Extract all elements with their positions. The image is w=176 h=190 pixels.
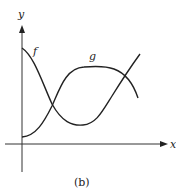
x-axis-label: x (170, 138, 176, 151)
function-graph: y x f g (b) (0, 0, 176, 190)
curve-g (22, 66, 138, 137)
curve-f-label: f (32, 45, 39, 58)
curve-f (22, 48, 140, 125)
x-axis-arrow-icon (160, 141, 168, 147)
y-axis-arrow-icon (19, 25, 25, 33)
curve-g-label: g (89, 50, 96, 63)
y-axis-label: y (17, 8, 25, 21)
figure-caption: (b) (74, 176, 90, 189)
